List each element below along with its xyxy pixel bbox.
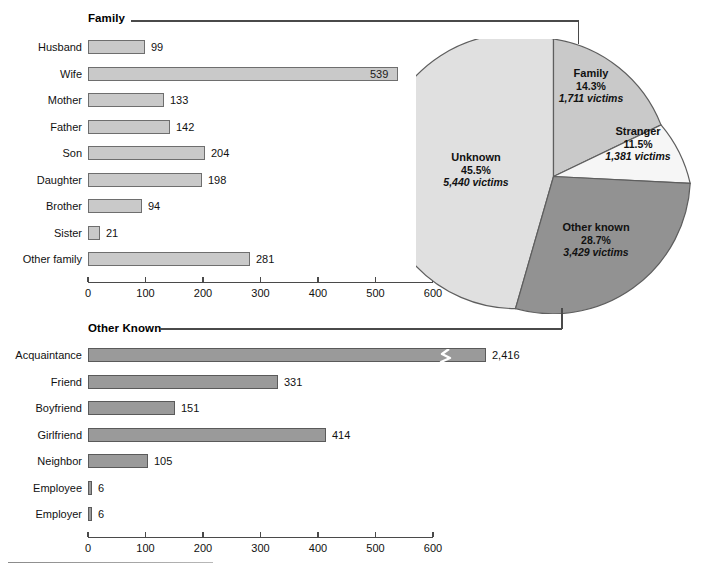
pie-label-stranger-percent: 11.5%	[582, 138, 694, 150]
bar-row-label: Other family	[0, 249, 82, 269]
bar-value-label: 414	[332, 425, 350, 445]
bar-row: Employee6	[0, 478, 706, 498]
x-axis-tick	[145, 532, 146, 537]
bar-row-label: Neighbor	[0, 451, 82, 471]
bar-row-label: Employee	[0, 478, 82, 498]
bar-value-label: 331	[284, 372, 302, 392]
relationship-pie-chart: Family 14.3% 1,711 victims Stranger 11.5…	[416, 39, 691, 314]
pie-label-unknown-name: Unknown	[418, 151, 534, 164]
bar-value-label: 6	[98, 478, 104, 498]
bar-row-label: Wife	[0, 64, 82, 84]
x-axis-tick	[317, 277, 318, 282]
x-axis-tick	[202, 277, 203, 282]
pie-label-family-name: Family	[535, 67, 647, 80]
pie-label-other-known-victims: 3,429 victims	[534, 246, 658, 258]
bar	[88, 146, 205, 160]
bar-value-label: 539	[370, 64, 388, 84]
x-axis-tick-label: 300	[251, 287, 269, 299]
bar-value-label: 6	[98, 504, 104, 524]
x-axis-tick-label: 100	[136, 542, 154, 554]
x-axis-line	[88, 282, 433, 283]
bar	[88, 67, 398, 81]
bar	[88, 173, 202, 187]
connector-other-known-vertical	[561, 308, 563, 329]
pie-label-family: Family 14.3% 1,711 victims	[535, 67, 647, 105]
pie-label-stranger-name: Stranger	[582, 125, 694, 138]
x-axis-tick	[375, 277, 376, 282]
x-axis-tick	[260, 532, 261, 537]
x-axis-tick-label: 200	[194, 287, 212, 299]
bar-row-label: Girlfriend	[0, 425, 82, 445]
bar	[88, 120, 170, 134]
x-axis-tick-label: 200	[194, 542, 212, 554]
bar-row-label: Brother	[0, 196, 82, 216]
bar-row: Girlfriend414	[0, 425, 706, 445]
bar	[88, 454, 148, 468]
x-axis-tick	[260, 277, 261, 282]
bar	[88, 252, 250, 266]
bar-row: Employer6	[0, 504, 706, 524]
x-axis-tick	[432, 532, 433, 537]
pie-label-unknown: Unknown 45.5% 5,440 victims	[418, 151, 534, 189]
bar-row-label: Father	[0, 117, 82, 137]
pie-label-stranger-victims: 1,381 victims	[582, 150, 694, 162]
x-axis-tick	[87, 532, 88, 537]
section-title-family: Family	[88, 12, 125, 24]
bar-value-label: 133	[170, 90, 188, 110]
bar-row-label: Sister	[0, 223, 82, 243]
x-axis-tick-label: 0	[85, 542, 91, 554]
bar-value-label: 204	[211, 143, 229, 163]
pie-label-other-known: Other known 28.7% 3,429 victims	[534, 221, 658, 259]
pie-label-unknown-percent: 45.5%	[418, 164, 534, 176]
bar	[88, 226, 100, 240]
bar-value-label: 94	[148, 196, 160, 216]
pie-label-family-percent: 14.3%	[535, 80, 647, 92]
x-axis-tick-label: 100	[136, 287, 154, 299]
bar-row-label: Mother	[0, 90, 82, 110]
bar	[88, 40, 145, 54]
bar	[88, 199, 142, 213]
section-title-other-known: Other Known	[88, 322, 161, 334]
bar-value-label: 2,416	[492, 345, 520, 365]
bar-value-label: 198	[208, 170, 226, 190]
bar-row-label: Employer	[0, 504, 82, 524]
bar-row-label: Friend	[0, 372, 82, 392]
x-axis-tick-label: 600	[424, 542, 442, 554]
axis-break-zigzag	[438, 349, 454, 367]
bar-value-label: 99	[151, 37, 163, 57]
x-axis-line	[88, 537, 433, 538]
bar-row-label: Acquaintance	[0, 345, 82, 365]
x-axis-tick-label: 300	[251, 542, 269, 554]
bar	[88, 507, 92, 521]
bar-row: Neighbor105	[0, 451, 706, 471]
pie-label-other-known-name: Other known	[534, 221, 658, 234]
pie-label-other-known-percent: 28.7%	[534, 234, 658, 246]
bar	[88, 348, 486, 362]
bar-row-label: Husband	[0, 37, 82, 57]
pie-label-stranger: Stranger 11.5% 1,381 victims	[582, 125, 694, 163]
footer-rule	[8, 562, 213, 563]
x-axis-tick	[202, 532, 203, 537]
bar-value-label: 151	[181, 398, 199, 418]
bar-value-label: 142	[176, 117, 194, 137]
x-axis-tick-label: 400	[309, 287, 327, 299]
bar	[88, 375, 278, 389]
bar-row-label: Daughter	[0, 170, 82, 190]
pie-label-unknown-victims: 5,440 victims	[418, 176, 534, 188]
x-axis-tick	[87, 277, 88, 282]
bar-row: Acquaintance2,416	[0, 345, 706, 365]
bar-value-label: 281	[256, 249, 274, 269]
bar	[88, 401, 175, 415]
bar	[88, 93, 164, 107]
bar-row-label: Son	[0, 143, 82, 163]
bar-row: Boyfriend151	[0, 398, 706, 418]
x-axis-tick-label: 0	[85, 287, 91, 299]
bar	[88, 481, 92, 495]
bar	[88, 428, 326, 442]
x-axis-tick-label: 500	[366, 542, 384, 554]
connector-other-known-horizontal	[160, 328, 562, 330]
x-axis-tick	[145, 277, 146, 282]
bar-value-label: 105	[154, 451, 172, 471]
x-axis-tick-label: 500	[366, 287, 384, 299]
bar-row-label: Boyfriend	[0, 398, 82, 418]
